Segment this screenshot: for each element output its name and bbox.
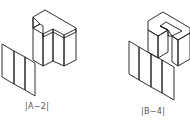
figure-a-block <box>33 10 76 66</box>
figure-b-strip-3 <box>151 54 162 93</box>
figure-b-block <box>148 12 190 66</box>
figure-a-projection <box>2 44 35 96</box>
figure-b-right-front <box>172 36 178 66</box>
figure-a-notch-face <box>33 17 40 28</box>
figure-b-left-pillar <box>148 30 158 58</box>
figure-a-strip-2 <box>14 51 25 90</box>
figure-b-left-pillar-side <box>158 30 168 58</box>
figure-b-strip-1 <box>129 41 139 80</box>
figure-a-label: |A−2| <box>25 102 49 111</box>
figure-a-strip-3 <box>25 57 35 96</box>
figure-b-label: |B−4| <box>141 107 165 116</box>
figure-b-projection <box>129 41 174 100</box>
figure-a-left-face <box>33 28 43 66</box>
figure-b-strip-4 <box>162 60 174 100</box>
figure-b-right-side <box>178 33 190 66</box>
figure-b-strip-2 <box>139 47 151 87</box>
figure-a-strip-1 <box>2 44 14 84</box>
